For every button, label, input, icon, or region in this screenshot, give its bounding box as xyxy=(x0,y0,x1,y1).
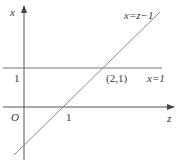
horizontal-axis-label: z xyxy=(167,113,171,124)
line-x-equals-z-minus-1-label: x=z−1 xyxy=(124,10,154,21)
intersection-point-label: (2,1) xyxy=(106,73,127,84)
vertical-tick-label: 1 xyxy=(14,73,20,84)
coordinate-diagram: x z O 1 1 x=1 x=z−1 (2,1) xyxy=(0,0,180,163)
line-x-equals-1-label: x=1 xyxy=(147,73,165,84)
line-x-equals-z-minus-1 xyxy=(14,12,160,155)
origin-label: O xyxy=(11,112,19,123)
vertical-axis-label: x xyxy=(10,7,15,18)
horizontal-tick-label: 1 xyxy=(66,112,72,123)
